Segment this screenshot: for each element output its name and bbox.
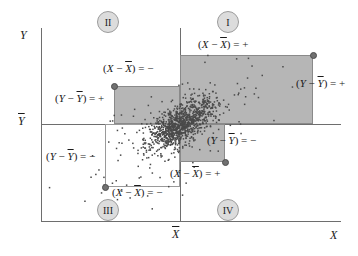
y-mean-tick-label: Y [18,114,25,129]
x-mean-tick-label: X [172,227,179,242]
deviation-rectangle-quadrant-2 [114,86,180,124]
x-axis-line [41,221,341,222]
scatterplot-figure: I II III IV (X − X) = + (X − X) = − (Y −… [0,0,358,256]
x-axis-title: X [330,228,337,243]
quadrant-badge-4: IV [217,199,239,221]
annotation-x-deviation-positive-bottom: (X − X) = + [170,167,220,179]
annotation-y-deviation-positive-quadrant-2: (Y − Y) = + [55,92,104,104]
corner-dot-quadrant-3 [102,184,109,191]
annotation-x-deviation-positive-top: (X − X) = + [198,38,248,50]
annotation-y-deviation-negative-middle: (Y − Y) = − [207,134,256,146]
quadrant-badge-1: I [217,11,239,33]
annotation-y-deviation-negative-left: (Y − Y) = − [46,150,95,162]
corner-dot-quadrant-1 [310,52,317,59]
deviation-rectangle-quadrant-3 [105,124,180,187]
annotation-y-deviation-positive-right: (Y − Y) = + [296,77,345,89]
annotation-x-deviation-negative-quadrant-2: (X − X) = − [103,62,153,74]
y-axis-line [41,28,42,222]
deviation-rectangle-quadrant-1 [180,55,313,124]
annotation-x-deviation-negative-quadrant-3: (X − X) = − [112,186,162,198]
corner-dot-quadrant-2 [111,83,118,90]
quadrant-badge-2: II [97,11,119,33]
corner-dot-quadrant-4 [222,159,229,166]
quadrant-badge-3: III [97,199,119,221]
y-axis-title: Y [20,28,27,43]
